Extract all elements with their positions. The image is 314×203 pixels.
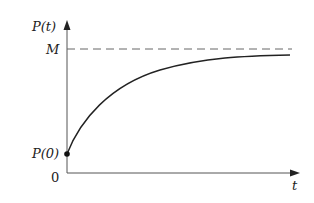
initial-label: P(0) [31, 146, 59, 161]
growth-curve [67, 55, 290, 154]
y-axis-label: P(t) [31, 19, 56, 34]
chart-canvas: P(t) M P(0) 0 t [0, 0, 314, 203]
origin-label: 0 [51, 170, 59, 185]
asymptote-label: M [45, 42, 60, 57]
x-axis-label: t [292, 178, 298, 193]
x-axis-arrow-icon [290, 170, 300, 177]
logistic-growth-chart: P(t) M P(0) 0 t [0, 0, 314, 203]
initial-point [64, 151, 70, 157]
y-axis-arrow-icon [64, 20, 71, 30]
